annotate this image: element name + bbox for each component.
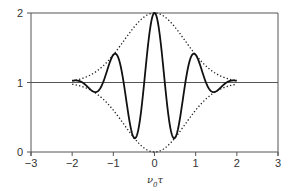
y-tick-label: 1 <box>17 77 23 89</box>
x-axis-label: ν0τ <box>147 174 164 189</box>
signal-curve <box>72 13 237 138</box>
x-tick-label: 3 <box>275 157 281 169</box>
x-tick-label: 2 <box>234 157 240 169</box>
y-tick-label: 2 <box>17 7 23 19</box>
x-tick-label: −2 <box>66 157 79 169</box>
x-tick-label: −1 <box>107 157 120 169</box>
plot-frame <box>31 13 278 156</box>
y-tick-label: 0 <box>17 146 23 158</box>
x-tick-label: 0 <box>151 157 157 169</box>
lower-envelope <box>72 84 237 152</box>
x-tick-label: −3 <box>25 157 38 169</box>
upper-envelope <box>72 13 237 81</box>
x-tick-label: 1 <box>193 157 199 169</box>
chart: −3−2−10123012 ν0τ <box>0 0 295 191</box>
